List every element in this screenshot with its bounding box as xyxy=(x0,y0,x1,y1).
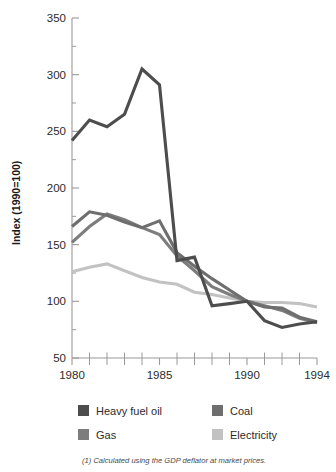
legend-swatch xyxy=(212,405,223,416)
y-tick-label: 250 xyxy=(47,125,66,137)
y-tick-label: 200 xyxy=(47,182,66,194)
legend-swatch xyxy=(78,429,89,440)
x-tick-label: 1990 xyxy=(234,369,260,381)
y-tick-label: 150 xyxy=(47,239,66,251)
legend-item: Gas xyxy=(78,429,117,441)
legend-label: Electricity xyxy=(230,429,278,441)
legend-swatch xyxy=(78,405,89,416)
y-tick-label: 100 xyxy=(47,295,66,307)
footnote: (1) Calculated using the GDP deflator at… xyxy=(82,456,266,465)
x-tick-label: 1980 xyxy=(59,369,85,381)
legend-label: Heavy fuel oil xyxy=(96,405,162,417)
legend-swatch xyxy=(212,429,223,440)
legend-label: Gas xyxy=(96,429,117,441)
y-tick-label: 350 xyxy=(47,12,66,24)
x-tick-label: 1985 xyxy=(147,369,173,381)
y-tick-label: 50 xyxy=(53,352,66,364)
x-tick-label: 1994 xyxy=(304,369,330,381)
price-index-line-chart: Index (1990=100) 50100150200250300350 19… xyxy=(0,0,336,472)
y-axis-title: Index (1990=100) xyxy=(10,161,22,245)
legend-item: Electricity xyxy=(212,429,278,441)
legend-item: Coal xyxy=(212,405,253,417)
y-tick-label: 300 xyxy=(47,69,66,81)
legend-label: Coal xyxy=(230,405,253,417)
